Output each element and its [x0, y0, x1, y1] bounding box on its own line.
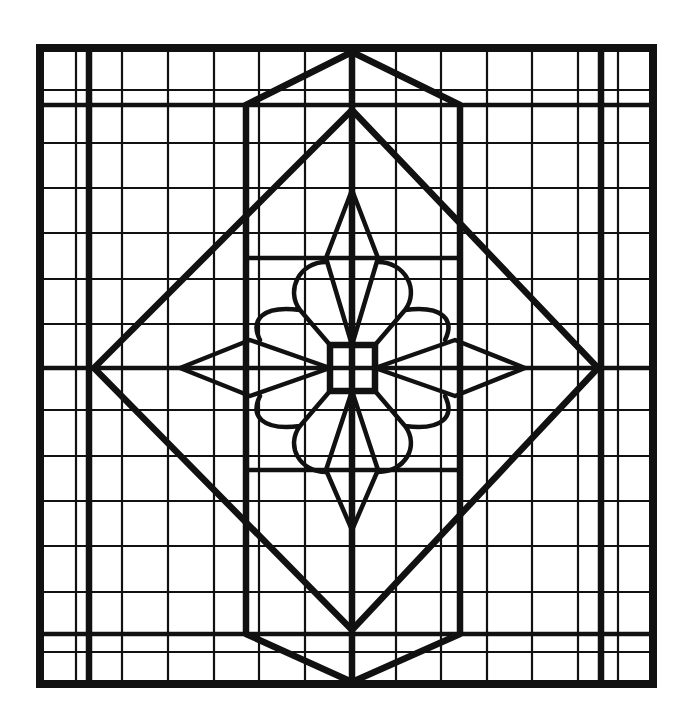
- lobe-top-right: [375, 262, 448, 345]
- lobe-top-left: [257, 262, 330, 345]
- lobe-bottom-left: [257, 391, 330, 472]
- lobe-bottom-right: [375, 391, 448, 472]
- stained-glass-window: [0, 0, 697, 726]
